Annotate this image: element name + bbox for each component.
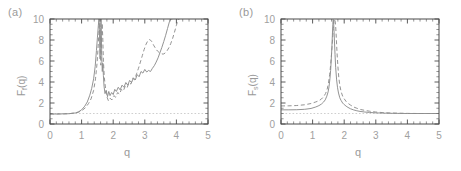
y-tick-label: 4 — [269, 77, 275, 88]
panel-b: (b) Fs(q) q 0123450246810 — [231, 0, 461, 171]
x-tick-label: 5 — [436, 130, 442, 141]
y-tick-label: 0 — [38, 119, 44, 130]
panel-a-plot: 0123450246810 — [0, 0, 230, 171]
y-tick-label: 8 — [38, 35, 44, 46]
x-tick-label: 0 — [278, 130, 284, 141]
y-tick-label: 6 — [269, 56, 275, 67]
plot-frame — [281, 19, 439, 124]
x-tick-label: 2 — [341, 130, 347, 141]
figure-container: (a) Ff(q) q 0123450246810 (b) Fs(q) q 01… — [0, 0, 461, 171]
x-tick-label: 0 — [47, 130, 53, 141]
y-tick-label: 4 — [38, 77, 44, 88]
curve-solid — [281, 20, 439, 114]
y-tick-label: 6 — [38, 56, 44, 67]
plot-frame — [50, 19, 208, 124]
x-tick-label: 1 — [310, 130, 316, 141]
y-tick-label: 8 — [269, 35, 275, 46]
y-tick-label: 10 — [33, 14, 45, 25]
curve-solid — [50, 19, 172, 114]
x-tick-label: 2 — [110, 130, 116, 141]
x-tick-label: 3 — [373, 130, 379, 141]
y-tick-label: 10 — [264, 14, 276, 25]
x-tick-label: 4 — [174, 130, 180, 141]
panel-a: (a) Ff(q) q 0123450246810 — [0, 0, 230, 171]
x-tick-label: 1 — [79, 130, 85, 141]
x-tick-label: 5 — [205, 130, 211, 141]
x-tick-label: 4 — [405, 130, 411, 141]
curve-dashed — [50, 19, 180, 114]
y-tick-label: 0 — [269, 119, 275, 130]
panel-b-plot: 0123450246810 — [231, 0, 461, 171]
curve-dashed — [281, 19, 439, 114]
y-tick-label: 2 — [38, 98, 44, 109]
x-tick-label: 3 — [142, 130, 148, 141]
y-tick-label: 2 — [269, 98, 275, 109]
